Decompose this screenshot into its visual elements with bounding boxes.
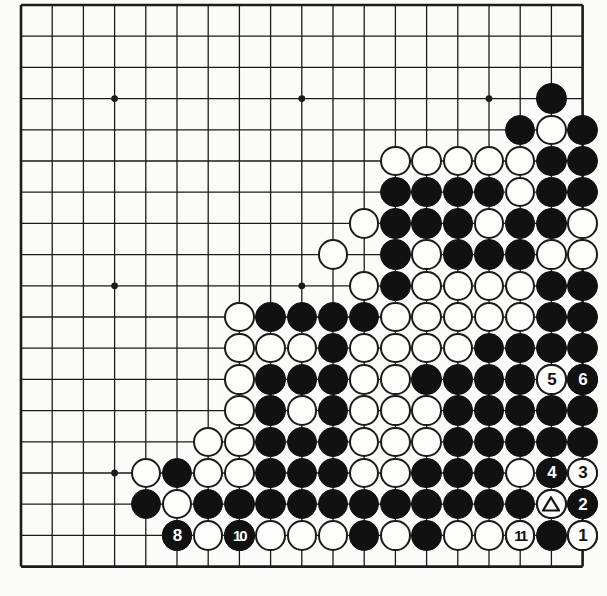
black-stone [474, 395, 504, 425]
star-point [298, 282, 305, 289]
white-stone [380, 364, 410, 394]
move-number-label: 4 [547, 464, 555, 481]
white-stone [318, 520, 348, 550]
black-stone [536, 395, 566, 425]
white-stone [380, 395, 410, 425]
white-stone [411, 333, 441, 363]
black-stone [536, 520, 566, 550]
black-stone [567, 177, 597, 207]
move-number-label: 8 [173, 527, 181, 544]
black-stone [380, 208, 410, 238]
black-stone [443, 458, 473, 488]
white-stone [474, 520, 504, 550]
black-stone [567, 302, 597, 332]
white-stone [443, 271, 473, 301]
white-stone [567, 208, 597, 238]
numbered-move-stone: 4 [536, 458, 566, 488]
black-stone [380, 239, 410, 269]
black-stone [411, 208, 441, 238]
black-stone [411, 364, 441, 394]
black-stone [287, 458, 317, 488]
black-stone [255, 489, 285, 519]
triangle-icon [542, 496, 560, 512]
numbered-move-stone: 11 [505, 520, 535, 550]
black-stone [567, 427, 597, 457]
black-stone [287, 302, 317, 332]
white-stone [131, 458, 161, 488]
move-number-label: 10 [233, 528, 246, 543]
black-stone [474, 427, 504, 457]
white-stone [567, 239, 597, 269]
black-stone [443, 364, 473, 394]
numbered-move-stone: 2 [567, 489, 597, 519]
white-stone [411, 395, 441, 425]
black-stone [380, 177, 410, 207]
black-stone [474, 239, 504, 269]
black-stone [411, 489, 441, 519]
white-stone [380, 146, 410, 176]
numbered-move-stone: 6 [567, 364, 597, 394]
numbered-move-stone: 5 [536, 364, 566, 394]
white-stone [474, 208, 504, 238]
black-stone [536, 83, 566, 113]
white-stone [287, 520, 317, 550]
black-stone [349, 520, 379, 550]
move-number-label: 2 [578, 496, 586, 513]
white-stone [380, 333, 410, 363]
black-stone [411, 458, 441, 488]
white-stone [224, 458, 254, 488]
black-stone [505, 239, 535, 269]
black-stone [380, 489, 410, 519]
black-stone [287, 364, 317, 394]
white-stone [349, 208, 379, 238]
white-stone [318, 239, 348, 269]
white-stone [443, 302, 473, 332]
black-stone [443, 239, 473, 269]
star-point [111, 282, 118, 289]
white-stone [411, 146, 441, 176]
white-stone [224, 395, 254, 425]
white-stone [380, 458, 410, 488]
white-stone [287, 395, 317, 425]
move-number-label: 3 [578, 464, 586, 481]
black-stone [443, 427, 473, 457]
move-number-label: 11 [514, 528, 526, 543]
numbered-move-stone: 8 [162, 520, 192, 550]
black-stone [567, 271, 597, 301]
black-stone [505, 208, 535, 238]
black-stone [474, 364, 504, 394]
white-stone [536, 239, 566, 269]
star-point [486, 95, 493, 102]
move-number-label: 5 [547, 371, 555, 388]
white-stone [349, 395, 379, 425]
white-stone [193, 520, 223, 550]
move-number-label: 6 [578, 371, 586, 388]
white-stone [411, 239, 441, 269]
black-stone [567, 115, 597, 145]
white-stone [255, 333, 285, 363]
white-stone [411, 302, 441, 332]
black-stone [536, 271, 566, 301]
white-stone [224, 364, 254, 394]
numbered-move-stone: 10 [224, 520, 254, 550]
black-stone [255, 458, 285, 488]
black-stone [443, 208, 473, 238]
black-stone [224, 489, 254, 519]
white-stone [411, 427, 441, 457]
white-stone [224, 333, 254, 363]
white-stone [224, 302, 254, 332]
black-stone [567, 395, 597, 425]
black-stone [318, 364, 348, 394]
black-stone [536, 302, 566, 332]
black-stone [505, 395, 535, 425]
black-stone [255, 302, 285, 332]
black-stone [318, 395, 348, 425]
black-stone [318, 427, 348, 457]
white-stone [224, 427, 254, 457]
black-stone [567, 333, 597, 363]
white-stone [255, 520, 285, 550]
black-stone [411, 520, 441, 550]
triangle-marked-stone [536, 489, 566, 519]
black-stone [287, 427, 317, 457]
go-diagram: 12345681011 [0, 0, 607, 596]
